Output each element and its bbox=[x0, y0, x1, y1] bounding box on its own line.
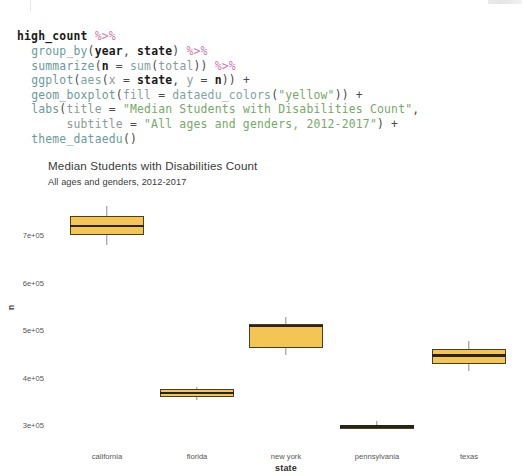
x-axis-tick-label: texas bbox=[460, 452, 478, 461]
code-token: ( bbox=[95, 59, 102, 73]
code-token: geom_boxplot bbox=[31, 88, 116, 102]
code-token: state bbox=[137, 44, 172, 58]
code-token: n bbox=[102, 59, 109, 73]
y-axis-tick-label: 5e+05 bbox=[8, 326, 44, 335]
code-token: = bbox=[102, 102, 123, 116]
y-axis-tick-label: 3e+05 bbox=[8, 421, 44, 430]
x-axis-tick-label: california bbox=[92, 452, 122, 461]
code-token: total bbox=[158, 59, 193, 73]
code-token: sum bbox=[130, 59, 151, 73]
chart-title: Median Students with Disabilities Count bbox=[48, 159, 258, 172]
code-token: dataedu_colors bbox=[172, 88, 271, 102]
code-line: high_count %>% bbox=[17, 29, 507, 44]
boxplot-median-line bbox=[432, 354, 506, 356]
r-code-block: high_count %>% group_by(year, state) %>%… bbox=[17, 29, 507, 146]
boxplot-median-line bbox=[70, 225, 144, 227]
scan-artifact-top-right bbox=[488, 0, 522, 4]
code-token: "Median Students with Disabilities Count… bbox=[123, 102, 412, 116]
x-axis-tick-label: florida bbox=[187, 452, 208, 461]
boxplot-median-line bbox=[340, 425, 414, 427]
y-axis-tick-label: 7e+05 bbox=[8, 231, 44, 240]
code-token: %>% bbox=[215, 59, 236, 73]
code-token: "yellow" bbox=[278, 88, 334, 102]
code-token: )) + bbox=[222, 73, 250, 87]
code-line: group_by(year, state) %>% bbox=[17, 44, 507, 59]
code-token: x bbox=[109, 73, 116, 87]
code-token bbox=[88, 29, 95, 43]
code-token bbox=[17, 117, 66, 131]
code-token: )) bbox=[194, 59, 215, 73]
code-token bbox=[17, 44, 31, 58]
code-token: ( bbox=[88, 44, 95, 58]
x-axis-tick-label: pennsylvania bbox=[355, 452, 399, 461]
code-token: = bbox=[151, 88, 172, 102]
code-token: summarize bbox=[31, 59, 95, 73]
code-token: subtitle bbox=[66, 117, 122, 131]
code-token: ggplot bbox=[31, 73, 73, 87]
x-axis-tick-label: new york bbox=[271, 452, 301, 461]
code-line: geom_boxplot(fill = dataedu_colors("yell… bbox=[17, 88, 507, 103]
code-token: )) + bbox=[335, 88, 363, 102]
code-token: %>% bbox=[95, 29, 116, 43]
code-token: year bbox=[95, 44, 123, 58]
code-token bbox=[17, 59, 31, 73]
boxplot-median-line bbox=[249, 325, 323, 327]
code-token: = bbox=[116, 73, 137, 87]
code-token: n bbox=[215, 73, 222, 87]
code-token bbox=[17, 102, 31, 116]
chart-subtitle: All ages and genders, 2012-2017 bbox=[48, 177, 186, 187]
code-token: y bbox=[186, 73, 193, 87]
y-axis-tick-label: 4e+05 bbox=[8, 373, 44, 382]
code-token: = bbox=[123, 117, 144, 131]
code-token: () bbox=[123, 132, 137, 146]
code-token: , bbox=[172, 73, 186, 87]
code-token: ( bbox=[102, 73, 109, 87]
code-line: theme_dataedu() bbox=[17, 132, 507, 147]
code-token: %>% bbox=[186, 44, 207, 58]
code-token: state bbox=[137, 73, 172, 87]
code-token: group_by bbox=[31, 44, 87, 58]
code-token: = bbox=[194, 73, 215, 87]
code-token: ) + bbox=[377, 117, 398, 131]
boxplot-median-line bbox=[160, 392, 234, 394]
code-token: aes bbox=[81, 73, 102, 87]
code-token: = bbox=[109, 59, 130, 73]
ggplot-figure: Median Students with Disabilities Count … bbox=[0, 150, 526, 476]
y-axis-tick-label: 6e+05 bbox=[8, 278, 44, 287]
code-line: summarize(n = sum(total)) %>% bbox=[17, 59, 507, 74]
scan-artifact-left-rule bbox=[30, 0, 31, 12]
code-token: high_count bbox=[17, 29, 88, 43]
code-token bbox=[17, 73, 31, 87]
code-token bbox=[17, 88, 31, 102]
code-token: ( bbox=[73, 73, 80, 87]
y-axis-label: n bbox=[6, 305, 16, 310]
code-token: , bbox=[123, 44, 137, 58]
code-line: ggplot(aes(x = state, y = n)) + bbox=[17, 73, 507, 88]
code-line: labs(title = "Median Students with Disab… bbox=[17, 102, 507, 117]
code-token: labs bbox=[31, 102, 59, 116]
code-token: ) bbox=[172, 44, 186, 58]
code-token: , bbox=[412, 102, 419, 116]
code-token: ( bbox=[116, 88, 123, 102]
code-token bbox=[17, 132, 31, 146]
code-token: title bbox=[66, 102, 101, 116]
x-axis-label: state bbox=[275, 463, 297, 473]
code-token: fill bbox=[123, 88, 151, 102]
code-line: subtitle = "All ages and genders, 2012-2… bbox=[17, 117, 507, 132]
boxplot-box bbox=[249, 324, 323, 348]
code-token: theme_dataedu bbox=[31, 132, 123, 146]
code-token: "All ages and genders, 2012-2017" bbox=[144, 117, 377, 131]
